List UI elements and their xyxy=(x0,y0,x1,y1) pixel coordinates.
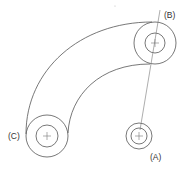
inner-arc xyxy=(68,64,150,133)
connector-line-a-b xyxy=(140,10,160,130)
joint-b xyxy=(134,22,176,64)
label-a: (A) xyxy=(150,152,162,162)
diagram-canvas: (B) (C) (A) xyxy=(0,0,188,176)
outer-arc xyxy=(26,22,152,134)
joint-c xyxy=(26,115,68,157)
label-b: (B) xyxy=(164,10,176,20)
joint-a xyxy=(126,123,152,149)
label-c: (C) xyxy=(8,131,20,141)
speck-mark xyxy=(114,5,115,6)
